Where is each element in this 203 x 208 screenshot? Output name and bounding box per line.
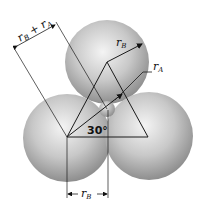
label-angle: 30°	[87, 124, 108, 137]
label-rb-plus-ra: rB + rA	[15, 15, 54, 46]
label-ra: rA	[153, 60, 163, 74]
sphere-b-right	[105, 92, 193, 180]
label-rb-bottom: rB	[81, 187, 91, 201]
sphere-packing-diagram: rB + rA rB rA 30° rB	[0, 0, 203, 208]
svg-text:rB + rA: rB + rA	[15, 15, 54, 46]
